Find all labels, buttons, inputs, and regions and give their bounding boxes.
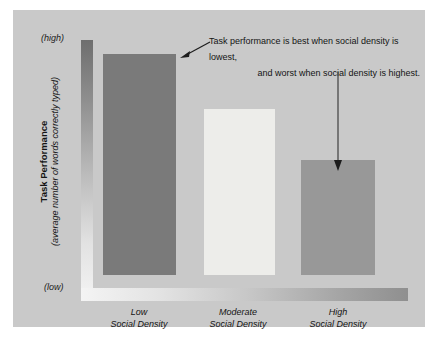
- x-axis-label-moderate-line1: Moderate: [183, 307, 293, 319]
- annotation-line-1: Task performance is best when social den…: [209, 34, 424, 66]
- x-axis-label-moderate-line2: Social Density: [183, 319, 293, 331]
- x-axis-label-low-line1: Low: [84, 307, 194, 319]
- chart-annotation: Task performance is best when social den…: [209, 34, 424, 81]
- chart-panel: (high) (low) Task Performance (average n…: [13, 10, 425, 327]
- bar-low-social-density: [103, 54, 176, 275]
- x-axis-label-high: High Social Density: [283, 307, 393, 330]
- y-axis-title-group: Task Performance (average number of word…: [38, 47, 61, 277]
- y-axis-subtitle: (average number of words correctly typed…: [50, 47, 61, 277]
- y-axis-high-label: (high): [41, 33, 64, 43]
- annotation-arrow-left-icon: [177, 38, 213, 64]
- annotation-line-2: and worst when social density is highest…: [209, 66, 424, 82]
- bar-moderate-social-density: [204, 109, 275, 275]
- y-axis-gradient-bar: [81, 40, 93, 301]
- bar-chart-figure: (high) (low) Task Performance (average n…: [0, 0, 444, 343]
- x-axis-label-moderate: Moderate Social Density: [183, 307, 293, 330]
- x-axis-label-high-line2: Social Density: [283, 319, 393, 331]
- bar-high-social-density: [301, 160, 375, 275]
- x-axis-label-low-line2: Social Density: [84, 319, 194, 331]
- annotation-arrow-down-icon: [331, 72, 345, 172]
- y-axis-low-label: (low): [44, 282, 64, 292]
- x-axis-gradient-bar: [81, 288, 408, 301]
- y-axis-title: Task Performance: [38, 47, 50, 277]
- x-axis-label-high-line1: High: [283, 307, 393, 319]
- x-axis-label-low: Low Social Density: [84, 307, 194, 330]
